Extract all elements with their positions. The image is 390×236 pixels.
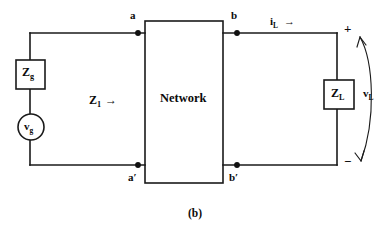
input-impedance-annotation: Z1→ bbox=[89, 94, 117, 110]
z1-subscript: 1 bbox=[97, 100, 101, 109]
zg-symbol: Z bbox=[22, 65, 30, 79]
node-label-a: a bbox=[130, 10, 136, 21]
z1-arrow-icon: → bbox=[105, 93, 117, 107]
load-impedance-label: ZL bbox=[331, 87, 344, 103]
il-subscript: L bbox=[273, 21, 278, 30]
vl-subscript: L bbox=[369, 93, 374, 102]
terminal-dot-a-prime bbox=[135, 162, 141, 168]
zl-subscript: L bbox=[339, 93, 344, 102]
source-impedance-label: Zg bbox=[22, 66, 34, 82]
z1-symbol: Z bbox=[89, 93, 97, 107]
network-block-label: Network bbox=[160, 92, 207, 105]
terminal-dot-b-prime bbox=[234, 162, 240, 168]
zl-symbol: Z bbox=[331, 86, 339, 100]
source-voltage-label: vg bbox=[24, 121, 33, 135]
terminal-dot-a bbox=[135, 30, 141, 36]
terminal-dot-b bbox=[234, 30, 240, 36]
vl-arrow-head-top bbox=[357, 37, 366, 47]
zg-subscript: g bbox=[30, 72, 34, 81]
il-arrow-icon: → bbox=[284, 15, 295, 27]
load-voltage-label: vL bbox=[363, 88, 373, 102]
circuit-schematic-svg bbox=[0, 0, 390, 236]
vl-arrow-head-bottom bbox=[355, 151, 364, 161]
polarity-minus-sign: − bbox=[344, 155, 351, 168]
node-label-a-prime: a′ bbox=[128, 172, 137, 183]
node-label-b-prime: b′ bbox=[229, 172, 238, 183]
load-current-annotation: iL→ bbox=[270, 16, 295, 30]
polarity-plus-sign: + bbox=[344, 22, 351, 35]
circuit-figure: a a′ b b′ Network Zg vg Z1→ iL→ ZL vL + … bbox=[0, 0, 390, 236]
node-label-b: b bbox=[231, 10, 237, 21]
figure-caption: (b) bbox=[0, 208, 390, 220]
vg-subscript: g bbox=[30, 126, 34, 135]
